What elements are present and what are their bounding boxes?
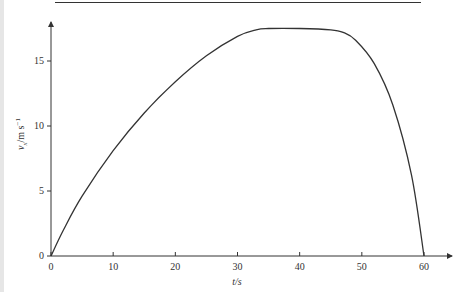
y-tick-label: 5 bbox=[24, 186, 44, 196]
x-axis-label: t/s bbox=[232, 276, 241, 287]
velocity-time-plot bbox=[0, 0, 467, 292]
velocity-curve bbox=[51, 28, 424, 256]
x-tick-label: 10 bbox=[108, 262, 118, 272]
y-tick-label: 0 bbox=[24, 251, 44, 261]
y-ticks bbox=[47, 61, 51, 256]
x-tick-label: 20 bbox=[170, 262, 180, 272]
y-tick-label: 15 bbox=[24, 56, 44, 66]
x-tick-label: 50 bbox=[357, 262, 367, 272]
x-tick-label: 30 bbox=[233, 262, 243, 272]
x-tick-label: 60 bbox=[419, 262, 429, 272]
x-tick-label: 40 bbox=[295, 262, 305, 272]
y-axis-label: vx/m s−1 bbox=[14, 118, 29, 150]
x-ticks bbox=[51, 252, 424, 256]
x-tick-label: 0 bbox=[49, 262, 54, 272]
